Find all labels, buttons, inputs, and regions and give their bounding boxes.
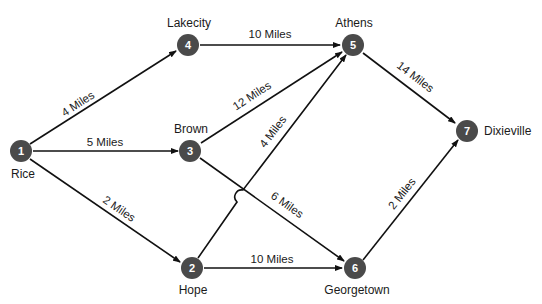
node-label-hope: Hope xyxy=(179,283,208,297)
node-label-dixieville: Dixieville xyxy=(484,124,532,138)
svg-text:1: 1 xyxy=(18,145,24,157)
edge-1-4 xyxy=(30,51,176,144)
edge-1-2 xyxy=(30,159,180,262)
svg-text:6: 6 xyxy=(352,262,358,274)
edge-3-6 xyxy=(200,158,344,261)
network-diagram: 4 Miles 5 Miles 2 Miles 10 Miles 12 Mile… xyxy=(0,0,542,304)
edge-label-2-6: 10 Miles xyxy=(251,253,294,265)
svg-text:7: 7 xyxy=(464,125,470,137)
edge-6-7 xyxy=(363,140,458,260)
edge-label-1-3: 5 Miles xyxy=(87,136,124,148)
node-4: 4 xyxy=(177,34,199,56)
svg-text:2: 2 xyxy=(189,262,195,274)
node-label-athens: Athens xyxy=(335,16,372,30)
svg-text:5: 5 xyxy=(350,39,356,51)
node-label-georgetown: Georgetown xyxy=(324,283,389,297)
svg-text:4: 4 xyxy=(185,39,192,51)
edge-label-6-7: 2 Miles xyxy=(386,175,418,211)
edge-label-3-6: 6 Miles xyxy=(269,189,306,220)
node-7: 7 xyxy=(456,120,478,142)
edge-label-2-5: 4 Miles xyxy=(257,113,289,150)
edge-label-4-5: 10 Miles xyxy=(249,28,292,40)
node-5: 5 xyxy=(342,34,364,56)
node-label-brown: Brown xyxy=(174,122,208,136)
node-2: 2 xyxy=(181,257,203,279)
svg-text:3: 3 xyxy=(187,145,193,157)
node-label-lakecity: Lakecity xyxy=(167,16,211,30)
edge-label-3-5: 12 Miles xyxy=(231,79,274,113)
node-1: 1 xyxy=(10,140,32,162)
node-6: 6 xyxy=(344,257,366,279)
edge-2-5 xyxy=(198,55,346,258)
node-label-rice: Rice xyxy=(11,167,35,181)
edge-label-5-7: 14 Miles xyxy=(395,59,437,95)
node-3: 3 xyxy=(179,140,201,162)
